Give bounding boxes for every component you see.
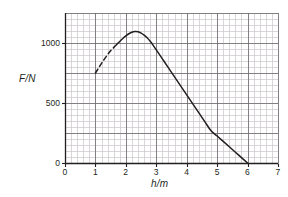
x-tick-label: 7 xyxy=(276,167,281,177)
x-tick-label: 2 xyxy=(123,167,128,177)
x-tick-label: 6 xyxy=(245,167,250,177)
y-tick-label: 500 xyxy=(34,98,60,108)
major-gridlines xyxy=(65,13,279,164)
y-axis-label: F/N xyxy=(19,73,36,84)
y-tick-label: 0 xyxy=(34,158,60,168)
chart-figure: F/N h/m 0123456705001000 xyxy=(0,0,288,197)
x-tick-label: 1 xyxy=(93,167,98,177)
x-axis-label: h/m xyxy=(151,178,168,189)
series-extrapolated-rise xyxy=(95,48,113,73)
x-tick-label: 0 xyxy=(63,167,68,177)
x-tick-label: 5 xyxy=(215,167,220,177)
tick-marks xyxy=(62,44,279,168)
axes xyxy=(66,13,279,164)
y-tick-label: 1000 xyxy=(34,38,60,48)
minor-gridlines xyxy=(65,13,279,164)
x-tick-label: 4 xyxy=(184,167,189,177)
x-tick-label: 3 xyxy=(154,167,159,177)
